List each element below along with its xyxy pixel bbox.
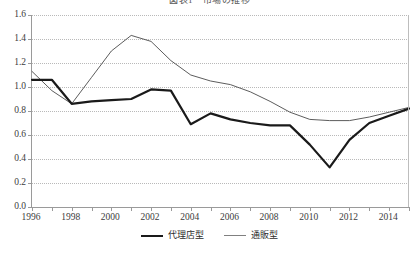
legend-label-tsuhan: 通販型 xyxy=(251,231,278,240)
x-axis-tick xyxy=(310,207,311,211)
x-axis-tick xyxy=(290,207,291,211)
x-axis-label: 2004 xyxy=(180,213,199,223)
y-axis-label: 1.0 xyxy=(0,82,26,92)
x-axis-label: 2012 xyxy=(339,213,358,223)
x-axis-tick xyxy=(171,207,172,211)
series-lines xyxy=(32,15,409,207)
legend-item-tsuhan[interactable]: 通販型 xyxy=(224,231,278,240)
x-axis-tick xyxy=(191,207,192,211)
y-axis-label: 1.6 xyxy=(0,10,26,20)
x-axis-tick xyxy=(250,207,251,211)
plot-area xyxy=(31,15,409,208)
x-axis-tick xyxy=(230,207,231,211)
chart-legend: 代理店型 通販型 xyxy=(0,231,419,240)
x-axis-label: 2002 xyxy=(141,213,160,223)
x-axis-label: 1996 xyxy=(22,213,41,223)
x-axis-tick xyxy=(389,207,390,211)
x-axis-tick xyxy=(52,207,53,211)
legend-swatch-thin-icon xyxy=(224,235,246,236)
series-line-dairiten xyxy=(32,80,409,168)
chart-container: 図表1 市場の推移 0.00.20.40.60.81.01.21.41.6 19… xyxy=(0,0,419,253)
x-axis-label: 2014 xyxy=(379,213,398,223)
y-axis-label: 0.4 xyxy=(0,154,26,164)
y-axis-label: 1.4 xyxy=(0,34,26,44)
x-axis-tick xyxy=(111,207,112,211)
x-axis-tick xyxy=(131,207,132,211)
x-axis-tick xyxy=(72,207,73,211)
y-axis-label: 0.6 xyxy=(0,130,26,140)
chart-title: 図表1 市場の推移 xyxy=(0,0,419,4)
series-line-tsuhan xyxy=(32,35,409,120)
x-axis-tick xyxy=(211,207,212,211)
x-axis-tick xyxy=(151,207,152,211)
x-axis-tick xyxy=(330,207,331,211)
x-axis-tick xyxy=(349,207,350,211)
y-axis-label: 0.2 xyxy=(0,178,26,188)
plot-right-border xyxy=(408,15,409,207)
x-axis-label: 2000 xyxy=(101,213,120,223)
x-axis-tick xyxy=(32,207,33,211)
x-axis-tick xyxy=(270,207,271,211)
x-axis-tick xyxy=(409,207,410,211)
legend-label-dairiten: 代理店型 xyxy=(168,231,204,240)
y-axis-label: 1.2 xyxy=(0,58,26,68)
x-axis-label: 1998 xyxy=(61,213,80,223)
legend-swatch-thick-icon xyxy=(141,235,163,237)
x-axis-label: 2010 xyxy=(299,213,318,223)
y-axis-label: 0.8 xyxy=(0,106,26,116)
y-axis-label: 0.0 xyxy=(0,202,26,212)
x-axis-label: 2008 xyxy=(260,213,279,223)
x-axis-label: 2006 xyxy=(220,213,239,223)
legend-item-dairiten[interactable]: 代理店型 xyxy=(141,231,204,240)
x-axis-tick xyxy=(369,207,370,211)
x-axis-tick xyxy=(92,207,93,211)
